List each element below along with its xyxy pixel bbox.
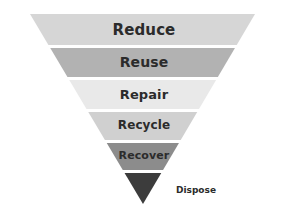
funnel-label-dispose: Dispose xyxy=(176,186,216,195)
funnel-label-recycle: Recycle xyxy=(118,119,170,131)
funnel-label-recover: Recover xyxy=(119,150,170,161)
funnel-label-reuse: Reuse xyxy=(120,55,169,69)
funnel-label-repair: Repair xyxy=(120,88,168,101)
waste-hierarchy-funnel-diagram: Reduce Reuse Repair Recycle Recover Disp… xyxy=(0,0,286,216)
funnel-label-reduce: Reduce xyxy=(113,23,176,38)
